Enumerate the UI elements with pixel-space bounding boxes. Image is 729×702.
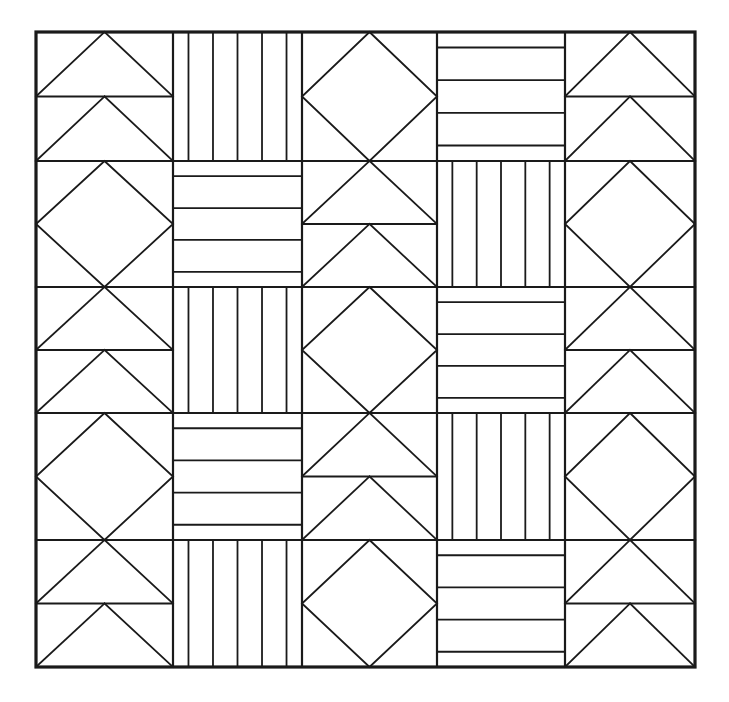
quilt-diagram: [0, 0, 729, 702]
canvas-background: [0, 0, 729, 702]
